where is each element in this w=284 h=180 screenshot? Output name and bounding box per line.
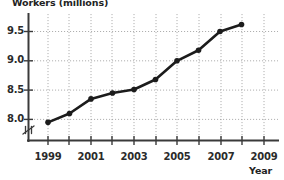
x-tick-label-2009: 2009 (244, 152, 284, 162)
y-tick-label-9-5: 9.5 (0, 26, 24, 36)
data-line-workers (48, 24, 242, 122)
data-point (45, 120, 51, 126)
x-tick-label-2005: 2005 (157, 152, 197, 162)
x-tick-label-1999: 1999 (28, 152, 68, 162)
data-point (88, 96, 94, 102)
x-tick-label-2001: 2001 (71, 152, 111, 162)
data-point (174, 58, 180, 64)
data-point (196, 47, 202, 53)
data-point (131, 87, 137, 93)
data-point (217, 29, 223, 35)
data-point (67, 111, 73, 117)
data-point (239, 22, 245, 28)
data-point (153, 77, 159, 83)
line-chart: Workers (millions) (0, 0, 284, 180)
y-tick-label-8-0: 8.0 (0, 114, 24, 124)
horizontal-gridlines (28, 32, 278, 120)
x-tick-label-2003: 2003 (114, 152, 154, 162)
x-axis-title: Year (249, 166, 272, 176)
y-tick-label-8-5: 8.5 (0, 85, 24, 95)
y-tick-label-9-0: 9.0 (0, 55, 24, 65)
x-tick-label-2007: 2007 (201, 152, 241, 162)
data-point (110, 90, 116, 96)
